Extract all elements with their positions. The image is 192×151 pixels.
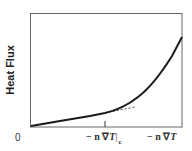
- plot-frame: [31, 14, 183, 128]
- crit-subscript: c: [118, 138, 121, 146]
- x-prefix: − n ∇: [147, 131, 170, 142]
- origin-label: 0: [15, 132, 21, 143]
- critical-gradient-label: − n ∇T|c: [86, 131, 122, 142]
- x-T: T: [170, 131, 176, 142]
- crit-prefix: − n ∇: [86, 131, 109, 142]
- y-axis-label: Heat Flux: [2, 30, 18, 110]
- heat-flux-curve: [31, 37, 182, 126]
- x-axis-label: − n ∇T: [147, 131, 176, 142]
- heat-flux-chart: Heat Flux 0 − n ∇T|c − n ∇T: [0, 0, 192, 151]
- plot-area: [0, 0, 192, 151]
